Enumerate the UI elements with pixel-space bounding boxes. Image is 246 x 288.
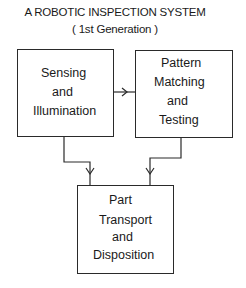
- arrow-sensing-to-transport: [64, 137, 90, 185]
- connector-lines: [0, 0, 246, 288]
- arrow-pattern-to-transport: [150, 138, 181, 185]
